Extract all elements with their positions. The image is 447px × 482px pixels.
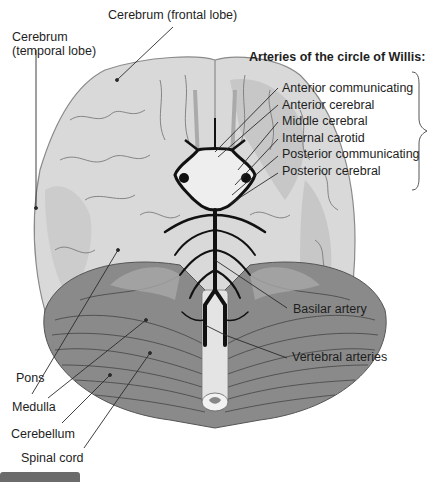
- figure-tab-marker: [0, 472, 80, 482]
- artery-anterior-communicating: Anterior communicating: [282, 80, 420, 97]
- label-basilar-artery: Basilar artery: [293, 302, 367, 316]
- willis-artery-list: Anterior communicating Anterior cerebral…: [282, 80, 420, 180]
- artery-posterior-communicating: Posterior communicating: [282, 146, 420, 163]
- label-temporal-lobe-line2: (temporal lobe): [12, 44, 96, 58]
- label-spinal-cord: Spinal cord: [21, 451, 84, 465]
- artery-internal-carotid: Internal carotid: [282, 130, 420, 147]
- label-medulla: Medulla: [12, 400, 56, 414]
- label-cerebellum: Cerebellum: [11, 427, 75, 441]
- artery-anterior-cerebral: Anterior cerebral: [282, 97, 420, 114]
- willis-title: Arteries of the circle of Willis:: [249, 50, 425, 64]
- label-pons: Pons: [16, 371, 45, 385]
- label-frontal-lobe: Cerebrum (frontal lobe): [108, 8, 237, 22]
- artery-middle-cerebral: Middle cerebral: [282, 113, 420, 130]
- label-vertebral-arteries: Vertebral arteries: [292, 350, 387, 364]
- artery-posterior-cerebral: Posterior cerebral: [282, 163, 420, 180]
- label-temporal-lobe-line1: Cerebrum: [12, 30, 68, 44]
